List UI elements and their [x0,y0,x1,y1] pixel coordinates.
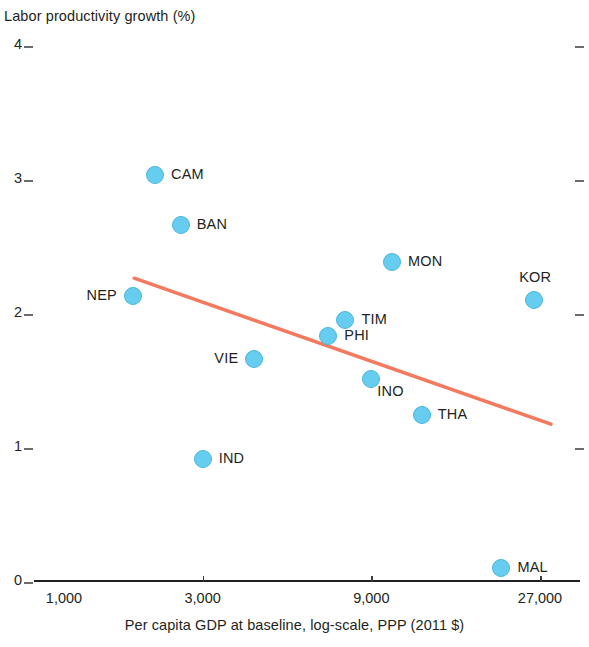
y-tick-label: 3 [0,171,22,186]
scatter-chart: Labor productivity growth (%) CAMBANMONK… [0,0,589,647]
data-point-label: BAN [197,216,227,232]
data-point-label: THA [438,406,468,422]
data-point-label: MAL [517,559,547,575]
x-tick-mark [540,576,542,582]
y-tick-mark-right [575,314,584,316]
x-tick-label: 3,000 [185,590,221,606]
data-point-label: INO [377,383,403,399]
data-point-label: MON [408,253,442,269]
data-point-label: CAM [171,166,204,182]
data-point[interactable] [146,166,164,184]
y-tick-label: 1 [0,439,22,454]
trendline-layer [0,0,589,647]
data-point-label: PHI [344,327,369,343]
y-tick-mark-right [575,46,584,48]
y-tick-mark [24,582,33,584]
data-point[interactable] [172,216,190,234]
data-point[interactable] [383,253,401,271]
x-tick-label: 27,000 [518,590,562,606]
data-point[interactable] [492,559,510,577]
data-point[interactable] [124,287,142,305]
plot-area: CAMBANMONKORNEPTIMPHIVIEINOTHAINDMAL [0,0,589,647]
y-tick-mark-right [575,448,584,450]
x-tick-mark [203,576,205,582]
data-point-label: VIE [214,350,238,366]
y-tick-label: 4 [0,37,22,52]
x-tick-mark [371,576,373,582]
y-tick-mark-right [575,180,584,182]
data-point[interactable] [194,450,212,468]
data-point-label: IND [219,450,245,466]
y-tick-label: 2 [0,305,22,320]
trendline [134,278,551,424]
y-tick-mark [24,46,33,48]
data-point[interactable] [319,327,337,345]
data-point[interactable] [413,406,431,424]
y-tick-mark [24,314,33,316]
data-point[interactable] [525,291,543,309]
x-tick-label: 9,000 [353,590,389,606]
data-point-label: NEP [87,287,117,303]
y-tick-mark [24,448,33,450]
x-axis-label: Per capita GDP at baseline, log-scale, P… [0,617,589,633]
y-tick-mark [24,180,33,182]
x-axis-line [34,580,580,582]
x-tick-label: 1,000 [46,590,82,606]
y-tick-label: 0 [0,573,22,588]
data-point[interactable] [245,350,263,368]
data-point-label: TIM [361,311,387,327]
data-point-label: KOR [519,269,551,285]
